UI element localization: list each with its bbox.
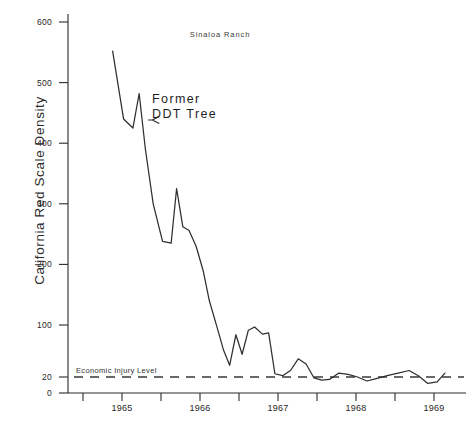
x-tick-label: 1969 xyxy=(411,403,457,413)
annotation-line-2: DDT Tree xyxy=(152,107,217,122)
y-tick-label: 0 xyxy=(18,388,52,398)
y-tick-label: 400 xyxy=(18,138,52,148)
chart-container: California Red Scale Density Sinaloa Ran… xyxy=(0,0,475,437)
x-tick-label: 1967 xyxy=(255,403,301,413)
y-tick-label: 20 xyxy=(18,372,52,382)
y-tick-label: 100 xyxy=(18,320,52,330)
x-tick-label: 1968 xyxy=(333,403,379,413)
chart-plot-area xyxy=(0,0,475,437)
annotation-line-1: Former xyxy=(152,92,217,107)
economic-injury-level-label: Economic Injury Level xyxy=(76,366,157,375)
y-tick-label: 600 xyxy=(18,17,52,27)
tick-marks-group xyxy=(59,22,434,401)
y-tick-label: 500 xyxy=(18,78,52,88)
y-tick-label: 200 xyxy=(18,259,52,269)
chart-title: Sinaloa Ranch xyxy=(150,30,290,39)
axes-group xyxy=(68,14,466,393)
y-axis-title: California Red Scale Density xyxy=(32,76,47,306)
former-ddt-tree-annotation: Former DDT Tree xyxy=(152,92,217,122)
y-tick-label: 300 xyxy=(18,199,52,209)
x-tick-label: 1965 xyxy=(99,403,145,413)
x-tick-label: 1966 xyxy=(177,403,223,413)
